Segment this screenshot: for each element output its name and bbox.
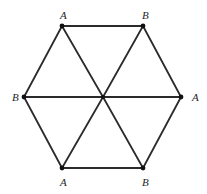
hexagon-svg bbox=[0, 0, 207, 194]
vertex-label-top-left: A bbox=[60, 10, 67, 21]
vertex-label-right: A bbox=[192, 92, 199, 103]
vertex-dot-bottom-right bbox=[141, 166, 146, 171]
hexagon-edge bbox=[103, 26, 143, 97]
hexagon-edge bbox=[24, 97, 62, 168]
vertex-dot-top-right bbox=[141, 24, 146, 29]
hexagon-edge bbox=[143, 97, 181, 168]
hexagon-edge bbox=[24, 26, 62, 97]
vertex-dot-right bbox=[179, 95, 184, 100]
vertex-label-bottom-right: B bbox=[142, 177, 149, 188]
hexagon-figure: ABABAB bbox=[0, 0, 207, 194]
vertex-label-bottom-left: A bbox=[60, 177, 67, 188]
vertex-label-top-right: B bbox=[142, 10, 149, 21]
hexagon-edge bbox=[62, 97, 103, 168]
vertex-dot-top-left bbox=[60, 24, 65, 29]
vertex-dot-bottom-left bbox=[60, 166, 65, 171]
vertex-dot-center bbox=[101, 95, 105, 99]
hexagon-edge bbox=[62, 26, 103, 97]
vertex-dot-left bbox=[22, 95, 27, 100]
vertex-label-left: B bbox=[12, 92, 19, 103]
hexagon-edge bbox=[103, 97, 143, 168]
hexagon-edge bbox=[143, 26, 181, 97]
